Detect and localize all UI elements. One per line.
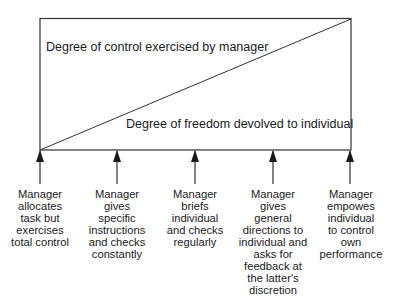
label-line: feedback at <box>239 260 307 272</box>
label-line: Manager <box>89 188 146 200</box>
label-line: Manager <box>239 188 307 200</box>
label-line: task but <box>11 212 69 224</box>
label-line: and checks <box>89 236 146 248</box>
label-line: Manager <box>167 188 224 200</box>
label-line: Manager <box>11 188 69 200</box>
label-line: individual <box>320 212 383 224</box>
arrow-label-1: Manager allocates task but exercises tot… <box>11 188 69 248</box>
label-line: discretion <box>239 284 307 296</box>
label-line: allocates <box>11 200 69 212</box>
arrows <box>40 151 350 184</box>
label-line: briefs <box>167 200 224 212</box>
label-line: directions to <box>239 224 307 236</box>
label-line: individual and <box>239 236 307 248</box>
arrow-label-5: Manager empowes individual to control ow… <box>320 188 383 260</box>
label-line: general <box>239 212 307 224</box>
label-line: regularly <box>167 236 224 248</box>
label-line: specific <box>89 212 146 224</box>
label-line: performance <box>320 248 383 260</box>
label-line: Manager <box>320 188 383 200</box>
label-line: constantly <box>89 248 146 260</box>
arrow-label-3: Manager briefs individual and checks reg… <box>167 188 224 248</box>
label-line: instructions <box>89 224 146 236</box>
label-line: gives <box>89 200 146 212</box>
freedom-label: Degree of freedom devolved to individual <box>126 117 353 131</box>
arrow-label-4: Manager gives general directions to indi… <box>239 188 307 296</box>
label-line: empowes <box>320 200 383 212</box>
label-line: total control <box>11 236 69 248</box>
label-line: individual <box>167 212 224 224</box>
label-line: own <box>320 236 383 248</box>
label-line: exercises <box>11 224 69 236</box>
label-line: and checks <box>167 224 224 236</box>
arrow-label-2: Manager gives specific instructions and … <box>89 188 146 260</box>
control-freedom-diagram: Degree of control exercised by manager D… <box>0 0 398 303</box>
control-label: Degree of control exercised by manager <box>46 40 268 54</box>
label-line: gives <box>239 200 307 212</box>
label-line: the latter's <box>239 272 307 284</box>
label-line: to control <box>320 224 383 236</box>
label-line: asks for <box>239 248 307 260</box>
